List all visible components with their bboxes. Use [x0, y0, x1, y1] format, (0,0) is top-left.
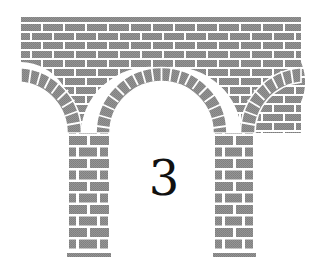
right-pier: [213, 133, 255, 251]
left-pier: [67, 133, 111, 251]
left-pier-base: [67, 253, 111, 257]
viaduct-illustration: [0, 0, 320, 276]
right-pier-base: [213, 253, 256, 257]
figure-label: 3: [144, 150, 184, 206]
deck-cap: [21, 17, 301, 22]
